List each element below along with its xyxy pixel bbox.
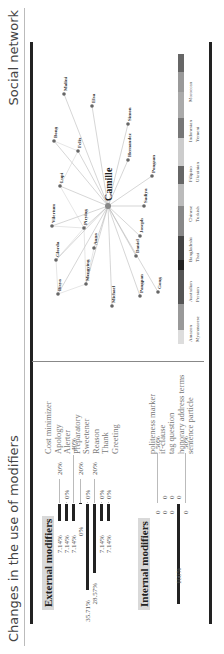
network-node	[58, 184, 62, 188]
external-bar-right	[101, 502, 102, 503]
external-bar-right	[73, 455, 74, 503]
legend-label: Amazon	[188, 325, 193, 342]
legend-segment	[178, 92, 184, 118]
network-edge	[64, 94, 108, 206]
legend-segment	[178, 330, 184, 344]
external-bar-left	[72, 504, 75, 521]
network-node-label: Pongsan	[151, 155, 156, 173]
external-bar-right	[87, 502, 88, 503]
legend-segment	[178, 118, 184, 138]
network-node	[56, 292, 60, 296]
internal-right-value: 0	[175, 496, 183, 500]
external-left-value: 0%	[77, 527, 85, 536]
network-node	[62, 92, 66, 96]
network-node-label: Hernandez	[127, 133, 132, 157]
external-bar-right	[80, 479, 81, 503]
legend-segment	[178, 54, 184, 72]
network-node-label: Lupi	[59, 172, 64, 183]
internal-left-value: 100%	[175, 568, 183, 584]
network-node-label: Simon	[127, 107, 132, 121]
network-node	[92, 246, 96, 250]
network-node-label: Elsa	[91, 93, 96, 103]
network-node-label: Sadiya	[143, 188, 148, 203]
network-node	[76, 149, 80, 153]
network-edge	[52, 206, 108, 226]
legend-label: Filipino	[188, 166, 193, 182]
external-right-value: 20%	[91, 462, 99, 475]
legend-segment	[178, 184, 184, 206]
external-bar-right	[94, 479, 95, 503]
legend-label: Ukrainian	[195, 162, 200, 182]
network-center-label: Camille	[103, 167, 114, 201]
external-modifier-label: Greeting	[111, 424, 121, 454]
external-heading: External modifiers	[42, 516, 54, 610]
legend-label: Yemeni	[195, 127, 200, 142]
internal-left-value: 0	[168, 511, 176, 515]
network-node	[150, 174, 154, 178]
legend-label: Chinese	[188, 206, 193, 222]
network-node-label: Glorda	[55, 241, 60, 257]
external-left-value: 7.14%	[105, 535, 113, 553]
network-node-label: Pangpan	[139, 274, 144, 293]
network-node-label: Mengying	[85, 259, 90, 281]
external-bar-left	[86, 504, 89, 590]
network-edge	[60, 186, 108, 206]
legend-label: Turkish	[195, 207, 200, 222]
legend-segment	[178, 206, 184, 236]
external-bar-left	[100, 504, 103, 521]
legend-label: Moroccan	[188, 82, 193, 102]
network-node-label: Michael	[111, 285, 116, 303]
external-bar-right	[108, 502, 109, 503]
external-right-value: 0%	[63, 490, 71, 499]
external-right-value: 0%	[84, 490, 92, 499]
network-center-node	[105, 203, 111, 209]
network-node	[82, 226, 86, 230]
legend-segment	[178, 260, 184, 270]
network-node-label: Anna	[93, 233, 98, 245]
header-rule	[24, 8, 25, 646]
internal-modifier-label: sentence particle	[186, 397, 196, 454]
modifiers-title: Changes in the use of modifiers	[6, 435, 21, 642]
network-edge	[58, 284, 86, 294]
network-node	[138, 234, 142, 238]
network-node-label: Malini	[63, 76, 68, 91]
network-edge	[54, 141, 78, 151]
legend-segment	[178, 270, 184, 304]
network-edge	[108, 206, 158, 292]
legend-segment	[178, 138, 184, 166]
network-node	[54, 258, 58, 262]
internal-bar-right	[157, 453, 158, 503]
network-node	[90, 104, 94, 108]
network-node	[50, 224, 54, 228]
external-bar-left	[107, 504, 110, 521]
network-edge	[108, 206, 140, 236]
legend-label: Myanmarese	[195, 316, 200, 342]
network-node	[52, 139, 56, 143]
network-node	[134, 254, 138, 258]
legend-label: Australian	[188, 281, 193, 302]
external-left-value: 7.14%	[70, 535, 78, 553]
panel-divider	[32, 361, 204, 362]
external-bar-right	[59, 479, 60, 503]
network-node	[126, 158, 130, 162]
legend-segment	[178, 304, 184, 330]
internal-left-value: 0	[182, 511, 190, 515]
legend-label: Persian	[195, 287, 200, 302]
legend-label: Thai	[195, 253, 200, 262]
external-bar-left	[93, 504, 96, 573]
network-title: Social network	[6, 10, 21, 105]
network-node-label: Vilertum	[51, 203, 56, 223]
social-network-graph: MaliniElsaSimonBongFelixHernandezPongsan…	[36, 56, 176, 356]
external-bar-left	[79, 503, 82, 504]
external-right-value: 20%	[56, 462, 64, 475]
network-node	[142, 204, 146, 208]
external-bar-left	[65, 504, 68, 521]
stage: Changes in the use of modifiers Social n…	[0, 0, 224, 654]
network-edge	[52, 226, 84, 228]
network-node-label: Felix	[77, 137, 82, 148]
internal-heading: Internal modifiers	[138, 518, 150, 610]
external-bar-left	[58, 504, 61, 521]
network-node	[138, 294, 142, 298]
network-node	[110, 304, 114, 308]
external-right-value: 20%	[77, 462, 85, 475]
